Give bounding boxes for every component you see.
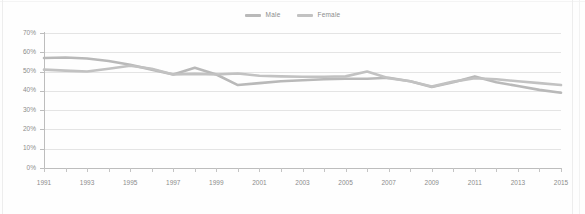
x-axis-label-1995: 1995 bbox=[123, 180, 137, 187]
x-axis-label-2015: 2015 bbox=[554, 180, 568, 187]
y-axis-label-0: 0% bbox=[2, 165, 36, 172]
x-axis-label-2009: 2009 bbox=[425, 180, 439, 187]
y-axis-label-50: 50% bbox=[2, 68, 36, 75]
x-tick-1998 bbox=[195, 168, 196, 172]
x-tick-2012 bbox=[496, 168, 497, 172]
gridline-70 bbox=[44, 33, 561, 34]
gridline-10 bbox=[44, 149, 561, 150]
x-tick-2005 bbox=[346, 168, 347, 172]
x-axis-label-2005: 2005 bbox=[338, 180, 352, 187]
x-tick-2004 bbox=[324, 168, 325, 172]
gridline-30 bbox=[44, 110, 561, 111]
y-axis-label-70: 70% bbox=[2, 30, 36, 37]
plot-area bbox=[44, 33, 561, 168]
legend-swatch-female bbox=[297, 14, 313, 17]
x-axis-label-2001: 2001 bbox=[252, 180, 266, 187]
legend-item-male[interactable]: Male bbox=[245, 12, 281, 19]
x-axis-label-1999: 1999 bbox=[209, 180, 223, 187]
gridline-50 bbox=[44, 72, 561, 73]
x-tick-1996 bbox=[152, 168, 153, 172]
legend-label-male: Male bbox=[266, 12, 281, 19]
x-tick-1991 bbox=[44, 168, 45, 172]
x-axis-label-1997: 1997 bbox=[166, 180, 180, 187]
chart-legend: Male Female bbox=[0, 12, 585, 19]
page-top-border bbox=[0, 1, 585, 2]
x-axis-label-1991: 1991 bbox=[37, 180, 51, 187]
y-tick-60 bbox=[40, 52, 45, 53]
x-tick-2011 bbox=[475, 168, 476, 172]
x-tick-1992 bbox=[66, 168, 67, 172]
y-axis-label-60: 60% bbox=[2, 49, 36, 56]
x-tick-2010 bbox=[453, 168, 454, 172]
legend-swatch-male bbox=[245, 14, 261, 17]
chart-page: Male Female 0%10%20%30%40%50%60%70%19911… bbox=[0, 0, 585, 214]
x-tick-2014 bbox=[539, 168, 540, 172]
x-axis-label-2011: 2011 bbox=[468, 180, 482, 187]
x-tick-1995 bbox=[130, 168, 131, 172]
x-tick-2009 bbox=[432, 168, 433, 172]
gridline-60 bbox=[44, 52, 561, 53]
x-axis-label-2003: 2003 bbox=[295, 180, 309, 187]
x-axis-label-1993: 1993 bbox=[80, 180, 94, 187]
x-tick-1993 bbox=[87, 168, 88, 172]
y-tick-10 bbox=[40, 149, 45, 150]
x-tick-1994 bbox=[109, 168, 110, 172]
x-axis-label-2013: 2013 bbox=[511, 180, 525, 187]
x-tick-2015 bbox=[561, 168, 562, 172]
y-tick-40 bbox=[40, 91, 45, 92]
y-tick-50 bbox=[40, 72, 45, 73]
y-tick-20 bbox=[40, 129, 45, 130]
y-axis-label-20: 20% bbox=[2, 126, 36, 133]
y-tick-30 bbox=[40, 110, 45, 111]
legend-item-female[interactable]: Female bbox=[297, 12, 341, 19]
x-tick-2008 bbox=[410, 168, 411, 172]
x-tick-2006 bbox=[367, 168, 368, 172]
x-tick-1999 bbox=[216, 168, 217, 172]
gridline-20 bbox=[44, 129, 561, 130]
x-tick-2007 bbox=[389, 168, 390, 172]
page-right-border bbox=[572, 0, 573, 214]
x-tick-2001 bbox=[259, 168, 260, 172]
y-tick-70 bbox=[40, 33, 45, 34]
y-axis-label-10: 10% bbox=[2, 145, 36, 152]
page-right-outer-border bbox=[579, 0, 580, 214]
legend-label-female: Female bbox=[318, 12, 341, 19]
x-tick-2003 bbox=[303, 168, 304, 172]
gridline-40 bbox=[44, 91, 561, 92]
x-tick-2000 bbox=[238, 168, 239, 172]
y-axis-label-30: 30% bbox=[2, 107, 36, 114]
x-tick-2002 bbox=[281, 168, 282, 172]
x-axis-label-2007: 2007 bbox=[381, 180, 395, 187]
x-tick-2013 bbox=[518, 168, 519, 172]
x-tick-1997 bbox=[173, 168, 174, 172]
y-axis-label-40: 40% bbox=[2, 87, 36, 94]
